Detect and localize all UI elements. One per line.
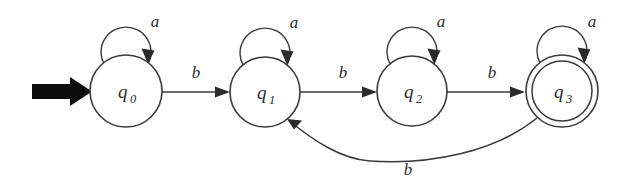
state-label-q0: q (118, 81, 128, 102)
state-label-q2: q (404, 81, 414, 102)
transition-arrowhead-q1-q2 (362, 87, 377, 98)
transition-q1-to-q2: b (300, 63, 377, 98)
transition-arrowhead-q0-q1 (215, 87, 230, 98)
self-loop-label-q3: a (588, 12, 597, 31)
transition-label-q3-q1: b (404, 160, 413, 179)
transition-q0-to-q1: b (162, 63, 230, 98)
self-loop-label-q1: a (290, 13, 299, 32)
state-q3[interactable]: q 3 (526, 55, 598, 127)
transition-label-q2-q3: b (488, 63, 497, 82)
state-sublabel-q0: 0 (130, 92, 137, 106)
transition-label-q0-q1: b (192, 63, 201, 82)
state-sublabel-q3: 3 (565, 92, 572, 106)
self-loop-label-q2: a (437, 12, 446, 31)
state-sublabel-q1: 1 (269, 93, 275, 107)
automaton-canvas: a a a a b b (0, 0, 638, 183)
transition-label-q1-q2: b (339, 63, 348, 82)
automaton-diagram: a a a a b b (0, 0, 638, 183)
state-q1[interactable]: q 1 (230, 57, 300, 127)
state-label-q3: q (554, 81, 564, 102)
start-arrow-icon (32, 77, 92, 106)
transition-q3-to-q1: b (287, 118, 537, 179)
state-label-q1: q (257, 82, 267, 103)
state-q0[interactable]: q 0 (90, 55, 162, 127)
self-loop-label-q0: a (151, 12, 160, 31)
state-q2[interactable]: q 2 (377, 56, 447, 126)
state-sublabel-q2: 2 (416, 92, 422, 106)
transition-arrowhead-q2-q3 (510, 87, 525, 98)
start-arrow (32, 77, 92, 106)
transition-arrowhead-q3-q1 (287, 119, 302, 130)
transition-q2-to-q3: b (447, 63, 525, 98)
